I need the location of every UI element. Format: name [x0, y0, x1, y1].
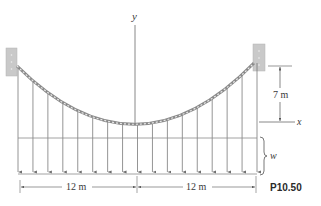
cable-diagram: y w 7 m x 12 m 12 m P1	[0, 0, 321, 206]
figure-label: P10.50	[270, 182, 302, 193]
x-axis: x	[259, 116, 302, 127]
sag-dimension: 7 m	[268, 66, 292, 121]
left-span-label: 12 m	[66, 181, 87, 192]
left-support	[6, 48, 17, 76]
right-support	[253, 44, 265, 71]
load-label: w	[270, 150, 277, 161]
hangers	[18, 63, 257, 172]
load-brace: w	[260, 137, 277, 175]
cable	[17, 63, 254, 124]
sag-dimension-label: 7 m	[273, 89, 289, 100]
right-span-label: 12 m	[186, 181, 207, 192]
x-axis-label: x	[296, 116, 302, 127]
y-axis: y	[131, 10, 137, 124]
span-dimensions: 12 m 12 m	[20, 176, 256, 193]
y-axis-label: y	[131, 10, 137, 22]
